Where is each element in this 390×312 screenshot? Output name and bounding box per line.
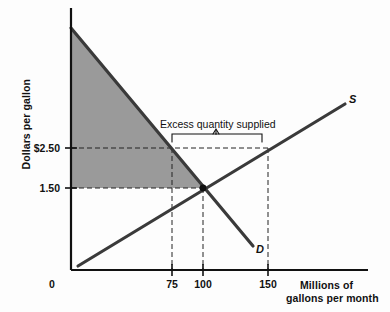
plot-area [0, 0, 390, 312]
x-axis-title-line1: Millions of [300, 279, 353, 291]
x-axis-title-line2: gallons per month [286, 292, 379, 305]
equilibrium-point [200, 185, 207, 192]
origin-label: 0 [42, 278, 62, 290]
x-tick-label-75: 75 [158, 278, 186, 290]
supply-curve-label: S [349, 93, 356, 105]
y-axis-title: Dollars per gallon [20, 72, 33, 176]
excess-quantity-brace [172, 129, 262, 142]
x-axis-title: Millions of gallons per month [300, 279, 388, 304]
supply-demand-figure: Dollars per gallon $2.50 1.50 0 75 100 1… [0, 0, 390, 312]
x-tick-label-150: 150 [253, 278, 283, 290]
y-tick-label-150: 1.50 [8, 182, 60, 194]
y-tick-label-250: $2.50 [8, 142, 60, 154]
demand-curve-label: D [256, 243, 264, 255]
x-tick-label-100: 100 [188, 278, 218, 290]
excess-quantity-supplied-label: Excess quantity supplied [160, 118, 276, 130]
